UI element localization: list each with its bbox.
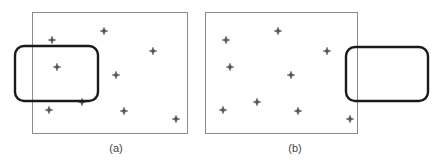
star-point-icon (346, 115, 354, 123)
panel-b: (b) (206, 13, 429, 155)
query-window (15, 46, 98, 101)
star-point-icon (323, 47, 331, 55)
diagram-canvas: (a) (b) (0, 0, 440, 165)
star-point-icon (226, 63, 234, 71)
star-point-icon (294, 107, 302, 115)
star-point-icon (120, 107, 128, 115)
star-point-icon (48, 36, 56, 44)
star-point-icon (112, 71, 120, 79)
star-point-icon (149, 47, 157, 55)
query-window (346, 47, 428, 101)
panel-label: (b) (288, 142, 301, 154)
star-point-icon (253, 98, 261, 106)
star-point-icon (53, 63, 61, 71)
star-point-icon (274, 27, 282, 35)
star-point-icon (100, 27, 108, 35)
panel-label: (a) (109, 142, 122, 154)
star-point-icon (45, 106, 53, 114)
star-point-icon (219, 106, 227, 114)
panel-a: (a) (15, 13, 188, 155)
star-point-icon (287, 71, 295, 79)
star-point-icon (222, 36, 230, 44)
panel-frame (33, 13, 188, 134)
star-point-icon (172, 115, 180, 123)
